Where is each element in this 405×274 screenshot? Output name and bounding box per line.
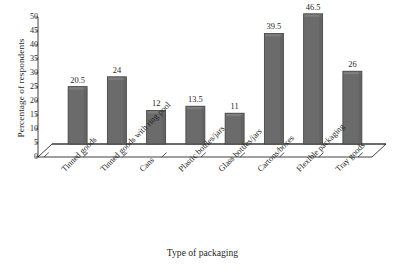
bar-chart-figure: Percentage of respondents 05101520253035… <box>0 0 405 274</box>
plot-area <box>0 0 405 274</box>
bar-value-label: 26 <box>348 60 356 69</box>
x-axis-title: Type of packaging <box>0 247 405 258</box>
bar-value-label: 20.5 <box>70 76 85 85</box>
bar <box>304 14 323 144</box>
bar-value-label: 39.5 <box>267 22 282 31</box>
bar <box>186 106 205 144</box>
bar-value-label: 13.5 <box>188 95 203 104</box>
bar-value-label: 24 <box>113 66 121 75</box>
bar <box>107 77 126 144</box>
bar <box>68 87 87 144</box>
bar <box>225 113 244 144</box>
bar-value-label: 11 <box>231 102 239 111</box>
bar-value-label: 46.5 <box>306 3 321 12</box>
bar <box>343 71 362 144</box>
bar <box>264 33 283 144</box>
